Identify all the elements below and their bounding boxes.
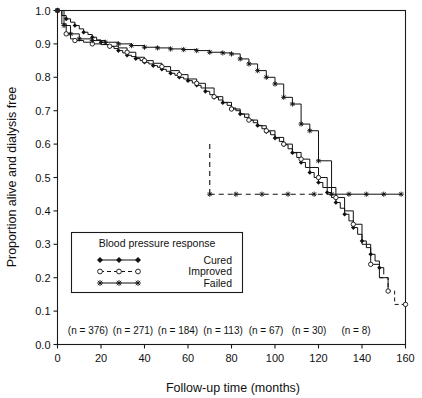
marker-failed: [116, 41, 121, 46]
marker-failed: [399, 192, 404, 197]
marker-failed: [229, 51, 234, 56]
marker-failed: [168, 46, 173, 51]
marker-improved: [369, 262, 373, 266]
marker-failed: [346, 192, 351, 197]
n-label: (n = 376): [68, 325, 108, 336]
legend: Blood pressure response Cured Improved: [72, 233, 243, 293]
marker-failed: [281, 95, 286, 100]
marker-improved: [142, 58, 146, 62]
marker-failed: [316, 158, 321, 163]
marker-improved: [73, 38, 77, 42]
legend-label-cured: Cured: [203, 254, 232, 266]
n-label: (n = 67): [249, 325, 284, 336]
marker-failed: [272, 81, 277, 86]
marker-failed: [233, 192, 238, 197]
marker-failed: [194, 48, 199, 53]
marker-improved: [229, 107, 233, 111]
marker-failed: [181, 47, 186, 52]
marker-improved: [334, 195, 338, 199]
n-labels-group: (n = 376)(n = 271)(n = 184)(n = 113)(n =…: [68, 325, 371, 336]
legend-marker-improved-2: [117, 269, 122, 274]
figure-background: [0, 0, 422, 398]
y-tick-label: 0.2: [35, 272, 50, 284]
marker-improved: [195, 81, 199, 85]
marker-failed: [55, 8, 60, 13]
y-tick-label: 1.0: [35, 5, 50, 17]
marker-failed: [307, 128, 312, 133]
marker-improved: [316, 175, 320, 179]
marker-failed: [264, 75, 269, 80]
legend-marker-failed-3: [135, 280, 141, 286]
marker-improved: [282, 142, 286, 146]
marker-failed: [312, 192, 317, 197]
x-tick-label: 100: [266, 352, 284, 364]
marker-failed: [285, 192, 290, 197]
x-tick-label: 140: [353, 352, 371, 364]
marker-failed: [61, 23, 66, 28]
x-tick-label: 20: [95, 352, 107, 364]
y-tick-label: 0.5: [35, 172, 50, 184]
marker-improved: [386, 289, 390, 293]
y-tick-label: 0.7: [35, 105, 50, 117]
marker-failed: [207, 192, 212, 197]
marker-failed: [103, 40, 108, 45]
marker-failed: [129, 43, 134, 48]
legend-label-improved: Improved: [188, 265, 232, 277]
marker-failed: [90, 38, 95, 43]
marker-improved: [403, 302, 407, 306]
marker-failed: [77, 36, 82, 41]
marker-failed: [364, 192, 369, 197]
marker-failed: [220, 50, 225, 55]
y-tick-label: 0.3: [35, 238, 50, 250]
x-tick-label: 60: [182, 352, 194, 364]
n-label: (n = 30): [292, 325, 327, 336]
y-tick-label: 0.4: [35, 205, 50, 217]
marker-failed: [329, 192, 334, 197]
marker-failed: [238, 56, 243, 61]
legend-title: Blood pressure response: [99, 237, 216, 249]
marker-improved: [212, 94, 216, 98]
marker-improved: [351, 222, 355, 226]
marker-failed: [246, 61, 251, 66]
y-tick-label: 0.9: [35, 38, 50, 50]
legend-label-failed: Failed: [203, 277, 232, 289]
legend-marker-failed-1: [97, 280, 103, 286]
x-axis-title: Follow-up time (months): [166, 381, 300, 395]
marker-failed: [68, 31, 73, 36]
marker-improved: [247, 118, 251, 122]
marker-failed: [381, 192, 386, 197]
y-tick-label: 0.8: [35, 71, 50, 83]
y-axis-title: Proportion alive and dialysis free: [5, 87, 19, 268]
x-tick-label: 120: [309, 352, 327, 364]
marker-improved: [299, 157, 303, 161]
y-tick-label: 0.0: [35, 339, 50, 351]
n-label: (n = 184): [158, 325, 198, 336]
legend-marker-improved-3: [136, 269, 141, 274]
marker-improved: [160, 64, 164, 68]
marker-improved: [108, 44, 112, 48]
marker-failed: [155, 45, 160, 50]
marker-failed: [207, 50, 212, 55]
x-tick-label: 40: [138, 352, 150, 364]
marker-improved: [177, 72, 181, 76]
x-tick-label: 160: [396, 352, 414, 364]
marker-failed: [259, 192, 264, 197]
n-label: (n = 8): [341, 325, 370, 336]
marker-improved: [264, 129, 268, 133]
marker-failed: [299, 121, 304, 126]
x-tick-label: 0: [54, 352, 60, 364]
legend-marker-failed-2: [116, 280, 122, 286]
y-tick-label: 0.6: [35, 138, 50, 150]
n-label: (n = 113): [203, 325, 243, 336]
legend-marker-improved-1: [98, 269, 103, 274]
marker-failed: [255, 68, 260, 73]
n-label: (n = 271): [113, 325, 153, 336]
marker-failed: [142, 45, 147, 50]
marker-improved: [64, 32, 68, 36]
marker-improved: [125, 50, 129, 54]
survival-curve-figure: 0.00.10.20.30.40.50.60.70.80.91.0 020406…: [0, 0, 422, 398]
y-tick-label: 0.1: [35, 305, 50, 317]
marker-failed: [290, 101, 295, 106]
x-tick-label: 80: [225, 352, 237, 364]
